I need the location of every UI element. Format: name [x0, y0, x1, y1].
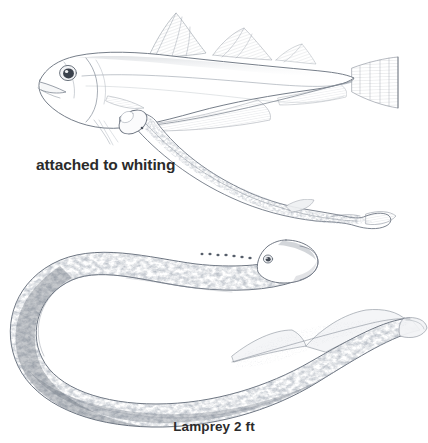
lamprey-gill-pores: [201, 253, 252, 260]
whiting-dorsal-fin-3: [276, 44, 316, 64]
caption-lamprey: Lamprey 2 ft: [0, 419, 428, 434]
fish-illustration-svg: [0, 0, 428, 443]
whiting-dorsal-fin-1: [148, 13, 206, 58]
whiting-caudal-fin: [352, 57, 398, 108]
whiting-dorsal-fin-2: [213, 28, 272, 60]
lamprey-eye: [263, 255, 272, 263]
whiting-eye: [60, 65, 77, 80]
whiting-figure: [38, 13, 398, 145]
illustration-plate: attached to whiting Lamprey 2 ft: [0, 0, 428, 443]
attached-lamprey-caudal-fin: [366, 212, 396, 225]
lamprey-figure: [0, 230, 428, 440]
label-attached-to-whiting: attached to whiting: [36, 156, 175, 174]
